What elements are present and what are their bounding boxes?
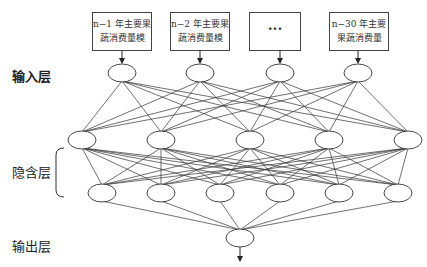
input-box-text-2: 果蔬消费量 <box>330 31 388 45</box>
hidden2-node <box>88 184 116 202</box>
hidden-layer-label: 隐含层 <box>12 162 51 181</box>
connection-edge <box>240 201 339 230</box>
hidden2-node <box>384 184 412 202</box>
input-box-n-2: n−2 年主要果 蔬消费量模 <box>170 12 230 51</box>
connection-edge <box>398 148 408 185</box>
connection-edge <box>161 81 358 132</box>
connection-edge <box>329 81 358 132</box>
input-box-text-1: n−1 年主要果 <box>93 17 151 31</box>
connection-edge <box>200 81 250 132</box>
hidden1-node <box>236 131 264 149</box>
hidden1-node <box>68 131 96 149</box>
connection-edge <box>82 81 122 132</box>
input-node <box>344 64 372 82</box>
hidden2-node <box>266 184 294 202</box>
hidden-layer-bracket <box>56 148 64 197</box>
connection-edge <box>161 201 240 230</box>
connection-edge <box>329 148 339 185</box>
connection-edge <box>161 148 280 185</box>
connection-edge <box>82 81 280 132</box>
ellipsis-text: ··· <box>250 15 300 43</box>
connection-edge <box>102 201 240 230</box>
connection-edge <box>82 148 102 185</box>
connection-edge <box>240 201 280 230</box>
connection-edge <box>220 201 240 230</box>
connection-edge <box>250 148 398 185</box>
hidden2-node <box>147 184 175 202</box>
hidden2-node <box>206 184 234 202</box>
input-layer-label: 输入层 <box>12 66 51 85</box>
input-node <box>108 64 136 82</box>
hidden1-node <box>394 131 422 149</box>
input-node <box>266 64 294 82</box>
hidden1-node <box>147 131 175 149</box>
hidden2-node <box>325 184 353 202</box>
input-box-n-1: n−1 年主要果 蔬消费量模 <box>92 12 152 51</box>
input-node <box>186 64 214 82</box>
connection-edge <box>82 148 398 185</box>
input-box-text-2: 蔬消费量模 <box>171 31 229 45</box>
input-box-ellipsis: ··· <box>249 12 301 51</box>
input-box-text-1: n−30 年主要 <box>330 17 388 31</box>
input-box-text-1: n−2 年主要果 <box>171 17 229 31</box>
input-box-text-2: 蔬消费量模 <box>93 31 151 45</box>
output-node <box>226 229 254 247</box>
input-box-n-30: n−30 年主要 果蔬消费量 <box>329 12 389 51</box>
connection-edge <box>250 81 280 132</box>
connection-edge <box>280 148 408 185</box>
connection-edge <box>240 201 398 230</box>
hidden1-node <box>315 131 343 149</box>
connection-edge <box>102 148 250 185</box>
connection-edge <box>339 148 408 185</box>
connection-edge <box>122 81 329 132</box>
output-layer-label: 输出层 <box>12 236 51 255</box>
